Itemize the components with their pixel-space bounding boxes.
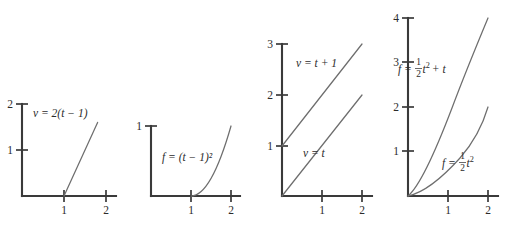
panel-2: 1 1 2 f = (t − 1)² xyxy=(130,0,260,229)
label-lead: f = xyxy=(398,63,415,75)
fraction-one-half: 12 xyxy=(459,152,466,173)
panel-1: 2 1 1 2 v = 2(t − 1) xyxy=(0,0,130,229)
y-tick-label-1: 1 xyxy=(7,144,13,156)
panel-4: 4 3 2 1 1 2 f = 12t2+ t f = 12t2 xyxy=(390,0,510,229)
y-tick-label-1: 1 xyxy=(136,120,142,132)
panel-1-curve-label: v = 2(t − 1) xyxy=(33,108,87,120)
x-tick-label-2: 2 xyxy=(485,204,491,216)
y-tick-label-2: 2 xyxy=(7,98,13,110)
y-tick-label-3: 3 xyxy=(267,38,273,50)
panel-3-curve-label-lower: v = t xyxy=(303,148,325,160)
label-end: + t xyxy=(432,63,446,75)
panel-4-curve-label-lower: f = 12t2 xyxy=(442,152,474,173)
x-tick-label-2: 2 xyxy=(103,204,109,216)
y-tick-label-4: 4 xyxy=(393,12,399,24)
y-tick-label-1: 1 xyxy=(267,140,273,152)
label-exponent: 2 xyxy=(470,155,474,164)
x-tick-label-1: 1 xyxy=(319,204,325,216)
figure-container: 2 1 1 2 v = 2(t − 1) 1 1 2 xyxy=(0,0,510,229)
panel-3-curve-label-upper: v = t + 1 xyxy=(296,58,337,70)
y-tick-label-2: 2 xyxy=(267,89,273,101)
y-tick-label-1: 1 xyxy=(393,145,399,157)
panel-2-curve-label: f = (t − 1)² xyxy=(162,152,212,164)
x-tick-label-1: 1 xyxy=(61,204,67,216)
fraction-one-half: 12 xyxy=(415,58,422,79)
x-tick-label-2: 2 xyxy=(228,204,234,216)
panel-3: 3 2 1 1 2 v = t + 1 v = t xyxy=(260,0,390,229)
label-exponent: 2 xyxy=(426,61,430,70)
curve-v-2t-minus-1 xyxy=(64,122,98,196)
x-tick-label-1: 1 xyxy=(188,204,194,216)
panel-3-plot: 3 2 1 1 2 xyxy=(260,0,390,229)
y-tick-label-2: 2 xyxy=(393,101,399,113)
label-lead: f = xyxy=(442,157,459,169)
panel-4-plot: 4 3 2 1 1 2 xyxy=(390,0,510,229)
x-tick-label-2: 2 xyxy=(359,204,365,216)
x-tick-label-1: 1 xyxy=(445,204,451,216)
curve-v-t xyxy=(282,95,362,196)
panel-2-plot: 1 1 2 xyxy=(130,0,260,229)
panel-4-curve-label-upper: f = 12t2+ t xyxy=(398,58,446,79)
